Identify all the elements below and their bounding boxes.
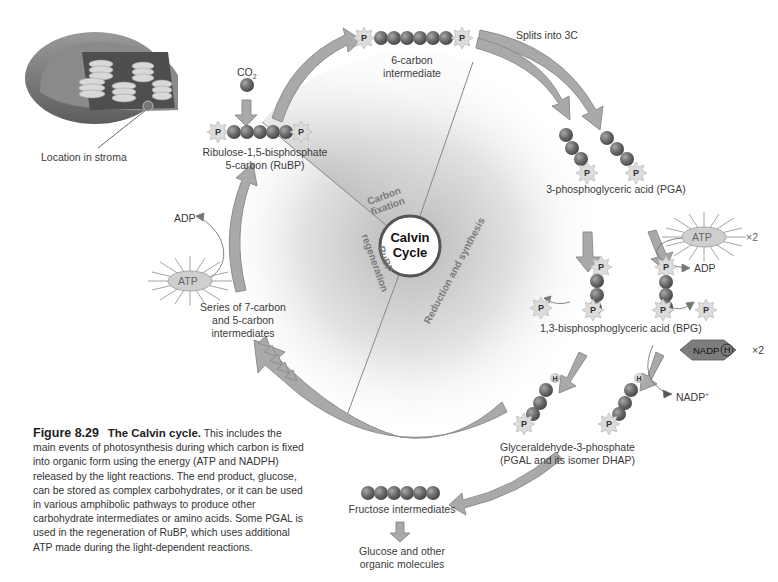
- series-intermediates-label: Series of 7-carbonand 5-carbonintermedia…: [198, 301, 288, 340]
- svg-text:P: P: [633, 168, 639, 178]
- nadph-label: NADP: [693, 344, 719, 357]
- nadp-arrowhead: [663, 390, 672, 398]
- svg-text:P: P: [606, 419, 612, 429]
- chloroplast-illustration: [25, 32, 178, 148]
- arrow-fructose-to-glucose: [390, 522, 410, 542]
- svg-text:P: P: [215, 127, 221, 137]
- figure-caption-text: This includes the main events of photosy…: [33, 428, 304, 553]
- pga-label: 3-phosphoglyceric acid (PGA): [546, 183, 686, 196]
- figure-caption: Figure 8.29 The Calvin cycle. This inclu…: [33, 426, 305, 555]
- svg-text:P: P: [538, 303, 544, 313]
- adp-left-arrowhead: [196, 213, 204, 221]
- bpg-label: 1,3-bisphosphoglyceric acid (BPG): [540, 322, 700, 335]
- arrow-bpg-right-down: [640, 352, 664, 391]
- co2-label: CO2: [237, 66, 257, 83]
- splits-label: Splits into 3C: [516, 29, 578, 42]
- pga-chain-right: [600, 131, 647, 184]
- adp-right-label: ADP: [694, 262, 716, 275]
- svg-text:H: H: [636, 375, 641, 382]
- adp-right-arrowhead: [682, 264, 690, 272]
- stroma-location-label: Location in stroma: [41, 151, 127, 164]
- svg-text:P: P: [663, 262, 669, 272]
- svg-text:P: P: [703, 305, 709, 315]
- svg-text:P: P: [521, 419, 527, 429]
- adp-left-label: ADP: [174, 212, 196, 225]
- figure-number: Figure 8.29: [33, 426, 99, 440]
- svg-text:P: P: [598, 262, 604, 272]
- atp-right-label: ATP: [692, 231, 712, 244]
- nadph-h-label: H: [724, 344, 731, 357]
- phosphate-label: P: [361, 33, 367, 43]
- fructose-chain: [361, 486, 440, 500]
- rubp-label: Ribulose-1,5-bisphosphate5-carbon (RuBP): [200, 146, 330, 172]
- six-carbon-chain: [353, 27, 473, 49]
- svg-text:P: P: [660, 305, 666, 315]
- pgal-chain-right: [598, 373, 644, 435]
- stroma-location-marker: [143, 101, 153, 111]
- nadp-plus-label: NADP+: [676, 388, 709, 404]
- arrow-co2-down: [235, 100, 257, 126]
- fructose-label: Fructose intermediates: [344, 503, 460, 516]
- atp-left-label: ATP: [178, 275, 198, 288]
- six-carbon-label: 6-carbonintermediate: [382, 54, 442, 80]
- glucose-label: Glucose and otherorganic molecules: [352, 545, 452, 571]
- figure-title: The Calvin cycle.: [108, 427, 201, 439]
- atp-x2-label: ×2: [746, 231, 758, 244]
- svg-text:H: H: [552, 375, 557, 382]
- svg-text:P: P: [584, 168, 590, 178]
- nadph-x2-label: ×2: [752, 344, 764, 357]
- svg-text:P: P: [590, 305, 596, 315]
- svg-text:P: P: [298, 127, 304, 137]
- pgal-label: Glyceraldehyde-3-phosphate(PGAL and its …: [495, 441, 640, 467]
- svg-text:P: P: [459, 33, 465, 43]
